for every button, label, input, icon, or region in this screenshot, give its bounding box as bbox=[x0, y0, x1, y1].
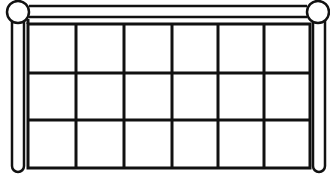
left-post bbox=[12, 20, 24, 172]
posts bbox=[12, 20, 325, 172]
left-finial-ball-icon bbox=[7, 1, 29, 23]
finials bbox=[7, 1, 329, 23]
right-finial-ball-icon bbox=[307, 1, 329, 23]
top-rail bbox=[29, 6, 307, 17]
panel-grid bbox=[28, 19, 310, 168]
grid-border bbox=[28, 24, 310, 168]
right-post bbox=[313, 20, 325, 172]
fence-drawing bbox=[0, 0, 330, 175]
fence-illustration bbox=[0, 0, 330, 175]
